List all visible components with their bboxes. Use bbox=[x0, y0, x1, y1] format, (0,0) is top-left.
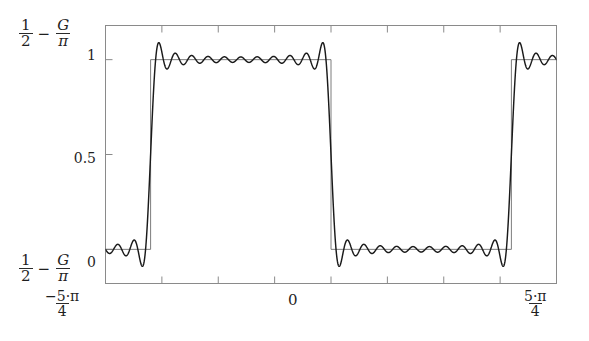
x-right-den: 4 bbox=[529, 303, 542, 318]
x-tick-label-mid: 0 bbox=[288, 291, 298, 309]
y-tick-label-1: 1 bbox=[56, 47, 96, 63]
x-left-num: −5·π bbox=[43, 289, 81, 303]
x-tick-label-right: 5·π 4 bbox=[521, 289, 550, 319]
y-bottom-den1: 2 bbox=[19, 268, 33, 284]
y-axis-label-top: 1 2 − G π bbox=[18, 16, 72, 50]
y-bottom-operator: − bbox=[38, 260, 51, 278]
gibbs-phenomenon-figure: 1 2 − G π 1 2 − G π 1 0.5 0 −5 bbox=[0, 0, 589, 341]
y-top-num2: G bbox=[55, 18, 71, 33]
y-bottom-den2: π bbox=[56, 268, 70, 284]
y-top-operator: − bbox=[38, 25, 51, 43]
y-top-den1: 2 bbox=[19, 33, 33, 49]
y-tick-label-0: 0 bbox=[56, 254, 96, 270]
x-tick-label-left: −5·π 4 bbox=[42, 289, 82, 319]
y-tick-label-0-5: 0.5 bbox=[56, 150, 96, 166]
x-left-den: 4 bbox=[56, 303, 69, 318]
x-right-num: 5·π bbox=[522, 289, 549, 303]
y-bottom-num1: 1 bbox=[19, 253, 33, 268]
y-top-num1: 1 bbox=[19, 18, 33, 33]
